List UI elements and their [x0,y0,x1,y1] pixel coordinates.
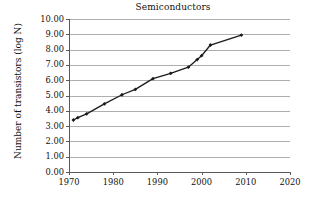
x-tick-label: 1990 [137,177,177,187]
data-point-marker [239,33,243,37]
x-tick-label: 2010 [226,177,266,187]
x-tick-label: 2000 [182,177,222,187]
y-tick-label: 4.00 [30,105,64,115]
y-tick-label: 8.00 [30,44,64,54]
y-tick-label: 10.00 [30,14,64,24]
axis-lines [69,19,290,172]
gridlines [69,20,290,158]
x-tick-label: 2020 [270,177,310,187]
x-tick-label: 1980 [93,177,133,187]
y-tick-label: 0.00 [30,167,64,177]
x-tick-label: 1970 [49,177,89,187]
y-tick-label: 3.00 [30,121,64,131]
y-tick-label: 9.00 [30,29,64,39]
data-point-marker [169,71,173,75]
y-tick-label: 1.00 [30,151,64,161]
data-series-line [73,35,241,120]
y-tick-label: 5.00 [30,90,64,100]
chart-figure: Semiconductors Number of transistors (lo… [0,0,316,198]
y-tick-label: 2.00 [30,136,64,146]
y-tick-label: 7.00 [30,59,64,69]
y-tick-label: 6.00 [30,75,64,85]
